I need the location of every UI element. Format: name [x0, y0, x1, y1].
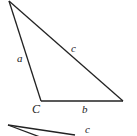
vertex-c-label: C — [32, 102, 41, 116]
side-b-label: b — [82, 103, 88, 115]
triangle2-side-c-label: c — [85, 123, 90, 135]
side-a-label: a — [17, 52, 23, 64]
side-a-line — [9, 1, 41, 101]
triangle-1: a c C b — [9, 1, 123, 116]
triangle-diagram: a c C b c — [0, 0, 137, 136]
triangle-2: c — [8, 123, 90, 136]
side-c-label: c — [71, 42, 76, 54]
triangle2-upper-line — [8, 125, 75, 135]
triangle2-lower-line — [8, 125, 40, 136]
side-c-line — [9, 1, 123, 101]
